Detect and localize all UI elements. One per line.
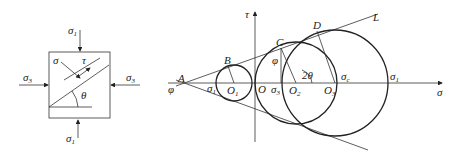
radius-O2-C (281, 48, 296, 83)
shear-stress-label: τ (82, 54, 87, 66)
mohr-diagram: A φ B C D L τ σ O O1 O2 O3 σ1 σ3 σc σ1 φ… (168, 8, 443, 150)
origin-label: O (258, 83, 266, 95)
theta-label: θ (81, 89, 87, 101)
stress-element: σ1 σ1 σ3 σ3 σ τ θ (19, 24, 140, 146)
O1-label: O1 (227, 84, 238, 98)
sigma1-right-label: σ1 (390, 70, 399, 84)
phi-C-label: φ (272, 54, 278, 66)
tau-axis-label: τ (245, 8, 250, 20)
phi-A-label: φ (168, 83, 174, 95)
sigma1-left-label: σ1 (207, 82, 216, 96)
point-B-label: B (224, 54, 231, 66)
right-load-label: σ3 (126, 71, 135, 85)
top-load-label: σ1 (68, 24, 77, 38)
line-L-label: L (372, 11, 379, 23)
shear-stress-arrow (79, 68, 90, 76)
radius-O1-B (228, 66, 234, 83)
figure: σ1 σ1 σ3 σ3 σ τ θ A φ B C D L τ σ O O1 O… (0, 0, 457, 159)
point-A-label: A (177, 72, 185, 84)
radius-O3-D (317, 31, 335, 83)
theta-arc (72, 91, 78, 107)
two-theta-label: 2θ (302, 69, 314, 81)
point-C-label: C (276, 36, 284, 48)
left-load-label: σ3 (23, 71, 32, 85)
sigma3-label: σ3 (271, 83, 280, 97)
normal-stress-label: σ (53, 54, 59, 66)
O3-label: O3 (324, 84, 336, 98)
point-D-label: D (312, 19, 321, 31)
bottom-load-label: σ1 (66, 132, 75, 146)
O2-label: O2 (289, 84, 301, 98)
sigmac-label: σc (341, 70, 350, 84)
sigma-axis-label: σ (437, 86, 443, 98)
